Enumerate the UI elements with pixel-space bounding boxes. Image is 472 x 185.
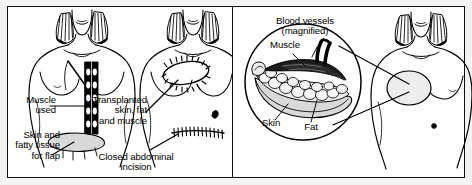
figure-result-torso [371,12,472,169]
donor-site-panel: Muscle used Skin and fatty tissue for fl… [0,0,233,185]
label-fat: Fat [293,122,329,132]
reconstructed-breast-sutures [161,56,210,92]
label-muscle-used: Muscle used [8,95,56,116]
suture-ticks-abdomen [174,127,223,138]
label-skin-fatty-tissue: Skin and fatty tissue for flap [2,130,60,161]
abdominal-suture-line [172,127,224,138]
label-muscle: Muscle [259,40,311,50]
label-transplanted-tissue: Transplanted skin, fat and muscle [85,95,147,126]
figure-post-transfer [140,10,233,167]
label-skin: Skin [251,118,291,128]
magnified-flap-panel: Blood vessels (magnified) Muscle Skin Fa… [233,0,472,185]
illustration-root: Muscle used Skin and fatty tissue for fl… [0,0,472,185]
label-blood-vessels: Blood vessels (magnified) [258,16,352,37]
label-closed-incision: Closed abdominal incision [88,152,184,173]
navel-mark [212,111,218,119]
navel-mark [432,124,437,129]
leader-closed-incision [150,134,178,150]
